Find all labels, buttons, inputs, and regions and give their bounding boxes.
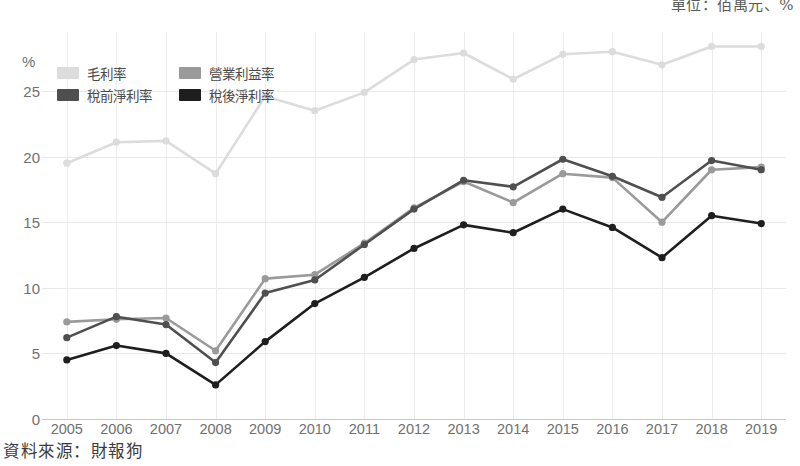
- y-axis-tick-label: 10: [6, 279, 40, 296]
- data-point[interactable]: [559, 156, 566, 163]
- legend-swatch-icon: [57, 67, 79, 79]
- legend-item-operating-margin[interactable]: 營業利益率: [179, 63, 301, 83]
- series-after-tax-net-margin: [63, 206, 765, 389]
- data-point[interactable]: [410, 245, 417, 252]
- legend-item-net-margin[interactable]: 稅後淨利率: [179, 85, 301, 105]
- legend-label: 稅前淨利率: [87, 85, 152, 105]
- data-point[interactable]: [510, 199, 517, 206]
- data-point[interactable]: [410, 56, 417, 63]
- unit-caption: 單位：佰萬元、%: [671, 0, 794, 14]
- x-axis-tick-label: 2005: [51, 421, 83, 437]
- margins-line-chart: % 0510152025 200520062007200820092010201…: [0, 22, 800, 412]
- data-point[interactable]: [609, 224, 616, 231]
- legend-label: 營業利益率: [209, 63, 274, 83]
- data-point[interactable]: [410, 206, 417, 213]
- data-point[interactable]: [559, 206, 566, 213]
- data-point[interactable]: [212, 170, 219, 177]
- data-point[interactable]: [658, 194, 665, 201]
- data-point[interactable]: [559, 170, 566, 177]
- data-point[interactable]: [63, 356, 70, 363]
- data-point[interactable]: [262, 338, 269, 345]
- y-axis-tick-label: 20: [6, 148, 40, 165]
- x-axis-tick-label: 2008: [199, 421, 231, 437]
- data-point[interactable]: [609, 173, 616, 180]
- data-point[interactable]: [460, 49, 467, 56]
- legend-label: 稅後淨利率: [209, 85, 274, 105]
- data-point[interactable]: [758, 220, 765, 227]
- series-line: [67, 209, 761, 385]
- series-pre-tax-net-margin: [63, 156, 765, 367]
- data-point[interactable]: [609, 48, 616, 55]
- data-point[interactable]: [262, 289, 269, 296]
- data-point[interactable]: [460, 221, 467, 228]
- data-point[interactable]: [262, 275, 269, 282]
- data-point[interactable]: [658, 254, 665, 261]
- legend-swatch-icon: [57, 89, 79, 101]
- y-axis-tick-label: 15: [6, 214, 40, 231]
- y-axis-tick-label: 0: [6, 411, 40, 428]
- data-point[interactable]: [113, 139, 120, 146]
- data-point[interactable]: [162, 350, 169, 357]
- data-point[interactable]: [113, 342, 120, 349]
- chart-legend: 毛利率營業利益率稅前淨利率稅後淨利率: [57, 62, 302, 106]
- data-point[interactable]: [658, 61, 665, 68]
- legend-item-pretax-margin[interactable]: 稅前淨利率: [57, 85, 179, 105]
- x-axis-ticks: 2005200620072008200920102011201220132014…: [42, 421, 786, 445]
- data-point[interactable]: [361, 241, 368, 248]
- data-point[interactable]: [212, 381, 219, 388]
- data-point[interactable]: [708, 43, 715, 50]
- x-axis-tick-label: 2012: [398, 421, 430, 437]
- y-axis-tick-label: 5: [6, 345, 40, 362]
- x-axis-tick-label: 2018: [695, 421, 727, 437]
- data-point[interactable]: [758, 166, 765, 173]
- data-point[interactable]: [708, 212, 715, 219]
- data-point[interactable]: [510, 183, 517, 190]
- legend-swatch-icon: [179, 89, 201, 101]
- data-point[interactable]: [708, 166, 715, 173]
- data-point[interactable]: [63, 160, 70, 167]
- data-point[interactable]: [311, 300, 318, 307]
- data-point[interactable]: [361, 89, 368, 96]
- data-point[interactable]: [510, 229, 517, 236]
- legend-row: 毛利率營業利益率: [57, 62, 302, 84]
- x-axis-tick-label: 2007: [150, 421, 182, 437]
- data-point[interactable]: [113, 313, 120, 320]
- data-point[interactable]: [212, 347, 219, 354]
- x-axis-tick-label: 2013: [447, 421, 479, 437]
- data-point[interactable]: [311, 107, 318, 114]
- x-axis-tick-label: 2016: [596, 421, 628, 437]
- data-point[interactable]: [559, 51, 566, 58]
- data-point[interactable]: [758, 43, 765, 50]
- data-point[interactable]: [658, 219, 665, 226]
- x-axis-tick-label: 2017: [646, 421, 678, 437]
- x-axis-tick-label: 2015: [547, 421, 579, 437]
- y-axis-tick-label: 25: [6, 83, 40, 100]
- legend-label: 毛利率: [87, 63, 126, 83]
- legend-row: 稅前淨利率稅後淨利率: [57, 84, 302, 106]
- y-axis-ticks: 0510152025: [0, 32, 40, 419]
- legend-swatch-icon: [179, 67, 201, 79]
- chart-page: 單位：佰萬元、% % 0510152025 200520062007200820…: [0, 0, 800, 466]
- data-point[interactable]: [162, 314, 169, 321]
- x-axis-tick-label: 2014: [497, 421, 529, 437]
- data-point[interactable]: [162, 137, 169, 144]
- x-axis-tick-label: 2009: [249, 421, 281, 437]
- data-point[interactable]: [708, 157, 715, 164]
- series-line: [67, 159, 761, 362]
- data-point[interactable]: [361, 274, 368, 281]
- data-point[interactable]: [63, 334, 70, 341]
- source-note: 資料來源：財報狗: [3, 438, 143, 462]
- data-point[interactable]: [510, 76, 517, 83]
- x-axis-tick-label: 2019: [745, 421, 777, 437]
- x-axis-tick-label: 2006: [100, 421, 132, 437]
- x-axis-tick-label: 2011: [349, 421, 380, 437]
- x-axis-tick-label: 2010: [299, 421, 331, 437]
- data-point[interactable]: [212, 359, 219, 366]
- legend-item-gross-margin[interactable]: 毛利率: [57, 63, 179, 83]
- gridline-horizontal: [42, 419, 786, 420]
- data-point[interactable]: [311, 276, 318, 283]
- data-point[interactable]: [162, 321, 169, 328]
- data-point[interactable]: [63, 318, 70, 325]
- data-point[interactable]: [460, 177, 467, 184]
